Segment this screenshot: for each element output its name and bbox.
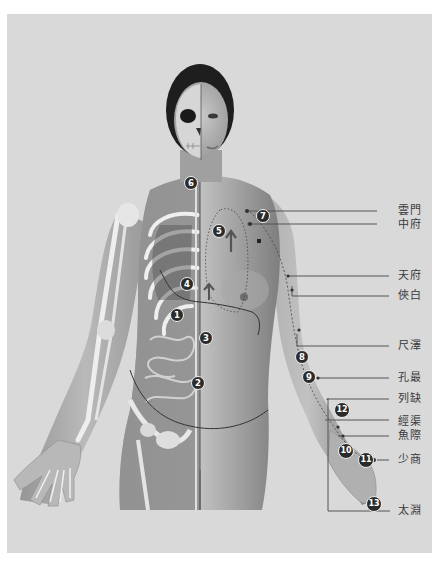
label-zhongfu: 中府: [398, 219, 421, 231]
marker-11: 11: [358, 452, 374, 468]
head: [166, 64, 234, 182]
label-yuji: 魚際: [398, 430, 421, 442]
label-shaoshang: 少商: [398, 454, 421, 466]
label-kongzui: 孔最: [398, 372, 421, 384]
label-yunmen: 雲門: [398, 205, 421, 217]
marker-4: 4: [180, 277, 194, 291]
label-lieque: 列缺: [398, 393, 421, 405]
marker-5: 5: [212, 224, 226, 238]
marker-10: 10: [338, 443, 354, 459]
marker-12: 12: [334, 402, 350, 418]
label-xiabai: 俠白: [398, 290, 421, 302]
marker-8: 8: [295, 350, 309, 364]
marker-7: 7: [256, 209, 270, 223]
label-jingqu: 經渠: [398, 416, 421, 428]
marker-9: 9: [302, 370, 316, 384]
marker-6: 6: [184, 176, 198, 190]
marker-2: 2: [191, 376, 205, 390]
label-chize: 尺澤: [398, 340, 421, 352]
anatomy-figure: [0, 0, 436, 562]
marker-13: 13: [366, 496, 382, 512]
marker-3: 3: [199, 331, 213, 345]
label-tianfu: 天府: [398, 270, 421, 282]
label-taiyuan: 太淵: [398, 505, 421, 517]
marker-1: 1: [170, 308, 184, 322]
